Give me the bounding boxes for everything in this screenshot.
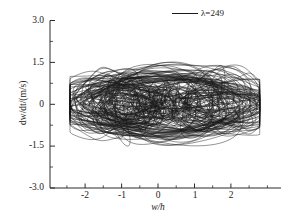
- x-tick-label-neg1: -1: [108, 191, 136, 201]
- x-axis-title-text: w/h: [151, 202, 165, 212]
- legend-line-swatch: [172, 13, 198, 14]
- x-major-ticks: [85, 184, 231, 189]
- y-major-ticks: [50, 21, 55, 189]
- y-axis-title-text: dw/dt/(m/s): [18, 81, 28, 125]
- x-tick-label-neg2: -2: [71, 191, 99, 201]
- x-axis-title: w/h: [144, 203, 172, 213]
- y-axis-title: dw/dt/(m/s): [19, 57, 29, 149]
- attractor-trajectory: [70, 62, 260, 146]
- chart-figure: 3.0 1.5 0 -1.5 -3.0 -2 -1 0 1 2 w/h dw/d…: [0, 0, 283, 218]
- x-tick-label-1: 1: [181, 191, 209, 201]
- x-tick-label-2: 2: [217, 191, 245, 201]
- legend-label: λ=249: [201, 9, 224, 18]
- legend: λ=249: [172, 9, 224, 18]
- y-tick-label-3: 3.0: [10, 16, 44, 26]
- x-tick-label-0: 0: [144, 191, 172, 201]
- y-tick-label-neg3: -3.0: [10, 183, 44, 193]
